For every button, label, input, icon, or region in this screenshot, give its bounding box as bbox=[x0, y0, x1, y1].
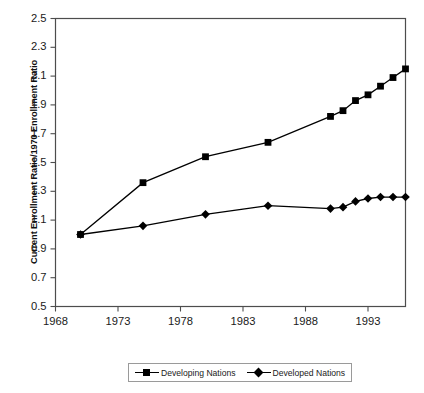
enrollment-ratio-chart: Current Enrollment Ratio/1970 Enrollment… bbox=[0, 0, 424, 393]
chart-plot-svg bbox=[0, 0, 424, 393]
y-tick-label: 2.3 bbox=[7, 40, 47, 52]
y-tick-label: 2.5 bbox=[7, 12, 47, 24]
plot-area-border bbox=[56, 19, 406, 307]
data-point-square bbox=[365, 91, 372, 98]
legend-item-developing-nations: Developing Nations bbox=[135, 367, 236, 378]
data-point-square bbox=[402, 66, 409, 73]
diamond-marker-icon bbox=[247, 367, 271, 378]
chart-legend: Developing Nations Developed Nations bbox=[128, 363, 352, 382]
x-tick-label: 1993 bbox=[346, 315, 390, 327]
data-point-square bbox=[327, 113, 334, 120]
x-axis-ticks bbox=[56, 307, 369, 312]
data-point-square bbox=[265, 139, 272, 146]
legend-item-developed-nations: Developed Nations bbox=[247, 367, 346, 378]
x-tick-label: 1978 bbox=[159, 315, 203, 327]
square-marker-icon bbox=[135, 367, 159, 378]
legend-label-developed-nations: Developed Nations bbox=[271, 368, 346, 378]
data-point-square bbox=[202, 153, 209, 160]
data-point-square bbox=[340, 107, 347, 114]
y-tick-label: 0.5 bbox=[7, 300, 47, 312]
data-point-square bbox=[390, 74, 397, 81]
data-point-square bbox=[377, 83, 384, 90]
y-tick-label: 1.1 bbox=[7, 213, 47, 225]
y-tick-label: 1.7 bbox=[7, 127, 47, 139]
y-tick-label: 1.3 bbox=[7, 184, 47, 196]
x-tick-label: 1968 bbox=[34, 315, 78, 327]
y-tick-label: 1.5 bbox=[7, 156, 47, 168]
x-tick-label: 1973 bbox=[96, 315, 140, 327]
y-tick-label: 1.9 bbox=[7, 98, 47, 110]
y-tick-label: 0.7 bbox=[7, 271, 47, 283]
y-tick-label: 2.1 bbox=[7, 69, 47, 81]
y-axis-ticks bbox=[51, 19, 56, 307]
y-tick-label: 0.9 bbox=[7, 242, 47, 254]
data-point-square bbox=[140, 179, 147, 186]
legend-label-developing-nations: Developing Nations bbox=[159, 368, 236, 378]
x-tick-label: 1983 bbox=[221, 315, 265, 327]
x-tick-label: 1988 bbox=[284, 315, 328, 327]
data-point-square bbox=[352, 97, 359, 104]
